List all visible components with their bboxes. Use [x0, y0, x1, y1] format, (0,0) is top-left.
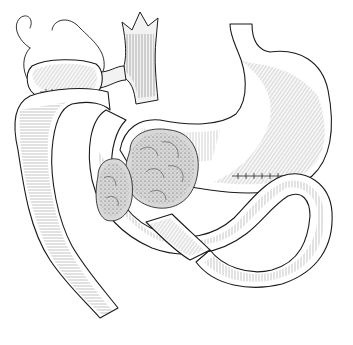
lobulated-mass-large — [125, 129, 198, 208]
vessel-trunk — [100, 12, 158, 104]
lobulated-mass-small — [96, 159, 132, 221]
anatomical-illustration — [0, 0, 353, 345]
